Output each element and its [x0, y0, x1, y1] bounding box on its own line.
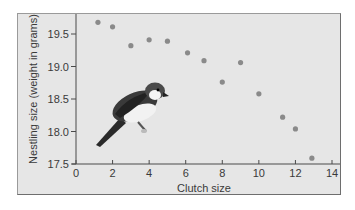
x-tick-label: 12: [289, 167, 301, 179]
x-tick-label: 8: [219, 167, 225, 179]
data-point: [309, 156, 314, 161]
data-points: [95, 20, 314, 161]
y-tick-label: 17.5: [48, 158, 69, 170]
y-axis-title: Nestling size (weight in grams): [27, 14, 39, 164]
data-point: [95, 20, 100, 25]
y-tick-label: 19.0: [48, 61, 69, 73]
data-point: [256, 91, 261, 96]
data-point: [185, 50, 190, 55]
axes: 0246810121417.518.018.519.019.5Clutch si…: [27, 14, 340, 194]
data-point: [165, 39, 170, 44]
x-tick-label: 14: [326, 167, 338, 179]
data-point: [147, 37, 152, 42]
x-tick-label: 10: [253, 167, 265, 179]
data-point: [238, 60, 243, 65]
data-point: [293, 126, 298, 131]
data-point: [128, 43, 133, 48]
y-tick-label: 18.0: [48, 126, 69, 138]
x-axis-title: Clutch size: [177, 182, 231, 194]
y-tick-label: 19.5: [48, 28, 69, 40]
x-tick-label: 6: [183, 167, 189, 179]
data-point: [201, 58, 206, 63]
x-tick-label: 4: [146, 167, 152, 179]
data-point: [280, 115, 285, 120]
data-point: [220, 80, 225, 85]
data-point: [110, 24, 115, 29]
x-tick-label: 2: [110, 167, 116, 179]
scatter-chart: 0246810121417.518.018.519.019.5Clutch si…: [0, 0, 355, 210]
x-tick-label: 0: [73, 167, 79, 179]
y-tick-label: 18.5: [48, 93, 69, 105]
bird-illustration: [96, 83, 169, 148]
